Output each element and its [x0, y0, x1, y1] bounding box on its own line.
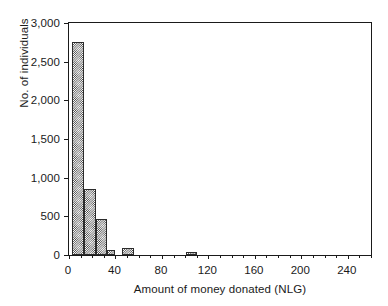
x-minor-tick-mark: [290, 255, 291, 258]
plot-frame: 05001,0001,5002,0002,5003,000: [68, 22, 372, 256]
x-tick-label: 200: [291, 264, 310, 276]
plot-area: [69, 23, 371, 255]
y-tick-mark: [64, 62, 69, 63]
x-minor-tick-mark: [174, 255, 175, 258]
y-tick-mark: [64, 178, 69, 179]
y-tick-label: 1,000: [31, 172, 60, 184]
x-minor-tick-mark: [325, 255, 326, 258]
histogram-figure: No. of individuals 05001,0001,5002,0002,…: [0, 0, 388, 306]
histogram-bar: [96, 219, 108, 255]
x-minor-tick-mark: [139, 255, 140, 258]
x-minor-tick-mark: [359, 255, 360, 258]
x-tick-label: 80: [155, 264, 168, 276]
y-tick-mark: [64, 100, 69, 101]
x-tick-label: 240: [337, 264, 356, 276]
x-tick-mark: [301, 255, 302, 259]
x-minor-tick-mark: [243, 255, 244, 258]
x-minor-tick-mark: [266, 255, 267, 258]
x-minor-tick-mark: [185, 255, 186, 258]
x-tick-mark: [162, 255, 163, 259]
y-tick-label: 1,500: [31, 133, 60, 145]
x-tick-label: 40: [108, 264, 121, 276]
x-minor-tick-mark: [197, 255, 198, 258]
histogram-bar: [84, 189, 96, 255]
x-minor-tick-mark: [313, 255, 314, 258]
y-tick-label: 2,000: [31, 94, 60, 106]
y-tick-label: 500: [41, 210, 61, 222]
histogram-bar: [72, 42, 84, 255]
y-tick-mark: [64, 23, 69, 24]
histogram-bar: [122, 248, 134, 255]
x-minor-tick-mark: [150, 255, 151, 258]
x-minor-tick-mark: [371, 255, 372, 258]
x-tick-label: 160: [244, 264, 263, 276]
y-axis-title: No. of individuals: [18, 0, 30, 143]
x-tick-mark: [208, 255, 209, 259]
histogram-bar: [186, 252, 196, 255]
x-minor-tick-mark: [104, 255, 105, 258]
x-tick-mark: [69, 255, 70, 259]
x-tick-mark: [255, 255, 256, 259]
y-tick-label: 3,000: [31, 17, 60, 29]
x-tick-label: 120: [198, 264, 217, 276]
x-tick-mark: [348, 255, 349, 259]
x-minor-tick-mark: [278, 255, 279, 258]
x-axis-title: Amount of money donated (NLG): [68, 283, 372, 295]
x-minor-tick-mark: [232, 255, 233, 258]
histogram-bar: [107, 250, 115, 255]
x-minor-tick-mark: [92, 255, 93, 258]
y-tick-label: 2,500: [31, 56, 60, 68]
y-tick-label: 0: [54, 249, 61, 261]
x-minor-tick-mark: [336, 255, 337, 258]
x-tick-label: 0: [65, 264, 71, 276]
y-tick-mark: [64, 216, 69, 217]
x-minor-tick-mark: [127, 255, 128, 258]
x-tick-mark: [115, 255, 116, 259]
y-tick-mark: [64, 139, 69, 140]
x-minor-tick-mark: [220, 255, 221, 258]
x-minor-tick-mark: [81, 255, 82, 258]
